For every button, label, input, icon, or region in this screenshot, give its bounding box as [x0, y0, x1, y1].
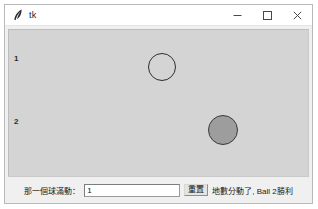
game-canvas[interactable]: 1 2: [8, 29, 309, 177]
application-window: tk 1 2: [4, 4, 313, 204]
maximize-button[interactable]: [252, 5, 282, 25]
minimize-icon: [232, 10, 243, 21]
window-controls: [222, 5, 312, 25]
title-bar: tk: [5, 5, 312, 26]
close-icon: [292, 10, 303, 21]
close-button[interactable]: [282, 5, 312, 25]
maximize-icon: [262, 10, 273, 21]
speed-label: 那一個球滿動：: [24, 185, 80, 196]
control-bar: 那一個球滿動： 重置 地數分動了, Ball 2勝利: [5, 177, 312, 203]
lane-label-1: 1: [14, 55, 18, 63]
speed-input[interactable]: [84, 184, 180, 197]
window-title: tk: [29, 10, 36, 20]
status-text: 地數分動了, Ball 2勝利: [212, 185, 292, 196]
lane-label-2: 2: [14, 118, 18, 126]
reset-button[interactable]: 重置: [184, 184, 208, 197]
minimize-button[interactable]: [222, 5, 252, 25]
ball-2[interactable]: [208, 115, 238, 145]
feather-icon: [11, 8, 25, 22]
ball-1[interactable]: [148, 53, 176, 81]
